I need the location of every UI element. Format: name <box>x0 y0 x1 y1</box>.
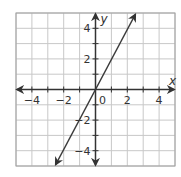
y-tick-label: −4 <box>74 145 90 158</box>
y-tick-label: 2 <box>84 53 91 66</box>
y-axis-label: y <box>100 12 109 26</box>
x-tick-label: 2 <box>124 94 131 107</box>
y-tick-label: 4 <box>84 22 91 35</box>
x-tick-label: −4 <box>24 94 40 107</box>
x-tick-label: 4 <box>156 94 163 107</box>
x-tick-label: 0 <box>99 94 106 107</box>
x-axis-label: x <box>168 74 177 88</box>
x-tick-label: −2 <box>56 94 72 107</box>
coordinate-plane-chart: −4−2024−4−224 x y <box>0 0 181 177</box>
